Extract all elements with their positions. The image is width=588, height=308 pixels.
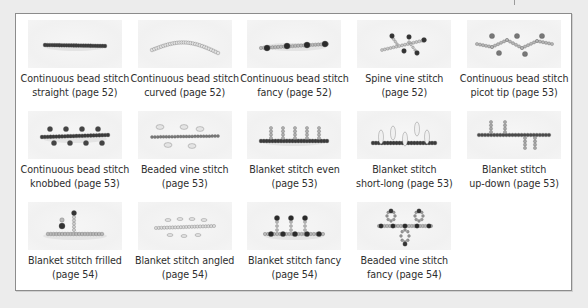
clear-bead	[195, 234, 201, 237]
caption-page-ref: picot tip (page 53)	[460, 86, 569, 100]
dark-bead	[275, 215, 280, 220]
stitch-caption: Spine vine stitch (page 52)	[365, 72, 443, 100]
bead	[529, 42, 532, 45]
bead	[387, 47, 390, 50]
bead	[290, 225, 293, 228]
bead	[523, 45, 526, 48]
bead	[106, 133, 110, 137]
bead	[167, 135, 170, 138]
stitch-caption: Beaded vine stitch (page 53)	[141, 163, 229, 191]
dark-bead	[304, 42, 310, 48]
bead	[394, 40, 397, 43]
bead	[394, 215, 397, 218]
bead	[533, 136, 536, 139]
blanket-stitch-even-icon	[247, 111, 341, 159]
bead	[300, 232, 303, 235]
bead	[282, 133, 285, 136]
bead-stitch-curved-icon	[138, 20, 232, 68]
bead	[417, 209, 421, 213]
bead	[403, 242, 407, 246]
bead	[514, 43, 517, 46]
dark-bead	[293, 231, 298, 236]
bead	[505, 38, 508, 41]
caption-title: Continuous bead stitch	[240, 72, 349, 86]
bead	[511, 42, 514, 45]
bead	[170, 135, 173, 138]
bead	[533, 143, 536, 146]
bead	[51, 140, 56, 145]
bead	[398, 45, 401, 48]
bead	[489, 124, 492, 127]
caption-page-ref: (page 53)	[249, 177, 339, 191]
bead-stitch-curved-icon-graphic	[138, 20, 232, 68]
beaded-vine-stitch-icon	[138, 111, 232, 159]
stitch-caption: Blanket stitch frilled (page 54)	[28, 254, 122, 282]
caption-title: Beaded vine stitch	[360, 254, 448, 268]
bead	[159, 135, 162, 138]
bead	[100, 232, 104, 236]
clear-bead	[196, 127, 204, 132]
stitch-sample-7: Beaded vine stitch (page 53)	[130, 105, 240, 196]
bead	[484, 44, 487, 47]
bead	[538, 40, 541, 43]
caption-title: Continuous bead stitch	[21, 163, 130, 177]
dark-bead	[390, 34, 395, 39]
clear-bead	[180, 125, 188, 130]
bead	[475, 42, 478, 45]
bead	[389, 47, 392, 50]
bead-stitch-picot-icon-graphic	[467, 20, 561, 68]
bead	[433, 141, 437, 145]
stitch-sample-12: Blanket stitch angled (page 54)	[130, 196, 240, 287]
beaded-vine-stitch-fancy-icon-graphic	[357, 202, 451, 250]
bead	[72, 216, 75, 219]
bead	[489, 130, 492, 133]
dark-bead	[289, 215, 294, 220]
bead	[306, 126, 309, 129]
bead	[79, 126, 84, 131]
bead	[541, 41, 544, 44]
bead	[502, 40, 505, 43]
stitch-caption: Blanket stitch angled (page 54)	[135, 254, 234, 282]
bead	[294, 126, 297, 129]
caption-title: Blanket stitch	[469, 163, 559, 177]
bead	[290, 221, 293, 224]
dark-bead	[391, 224, 396, 229]
bead	[415, 41, 418, 44]
bead	[63, 126, 68, 131]
blanket-stitch-frilled-icon	[28, 202, 122, 250]
stitch-sample-10: Blanket stitch up-down (page 53)	[459, 105, 569, 196]
bead	[499, 41, 502, 44]
bead	[387, 218, 390, 221]
stitch-caption: Blanket stitch fancy (page 54)	[248, 254, 341, 282]
bead	[306, 130, 309, 133]
bead	[422, 215, 425, 218]
spine-vine-stitch-icon-graphic	[357, 20, 451, 68]
bead	[294, 130, 297, 133]
dark-bead	[403, 224, 408, 229]
dark-bead	[379, 224, 384, 229]
stitch-caption: Blanket stitch even (page 53)	[249, 163, 339, 191]
bead	[508, 40, 511, 43]
bead	[517, 45, 520, 48]
bead	[270, 126, 273, 129]
bead	[282, 126, 285, 129]
blanket-stitch-up-down-icon	[467, 111, 561, 159]
stitch-sample-4: Spine vine stitch (page 52)	[349, 14, 459, 105]
bead	[493, 44, 496, 47]
bead	[481, 44, 484, 47]
bead	[418, 40, 421, 43]
bead	[210, 135, 213, 138]
stitch-sample-6: Continuous bead stitch knobbed (page 53)	[20, 105, 130, 196]
bead	[270, 136, 273, 139]
bead	[401, 230, 404, 233]
stitch-sample-1: Continuous bead stitch straight (page 52…	[20, 14, 130, 105]
clear-bead	[391, 126, 396, 140]
caption-title: Continuous bead stitch	[130, 72, 239, 86]
dark-bead	[269, 231, 274, 236]
bead	[318, 133, 321, 136]
stitch-sample-11: Blanket stitch frilled (page 54)	[20, 196, 130, 287]
bead-stitch-fancy-icon-graphic	[247, 20, 341, 68]
bead	[67, 140, 72, 145]
caption-title: Blanket stitch even	[249, 163, 339, 177]
bead	[404, 229, 407, 232]
